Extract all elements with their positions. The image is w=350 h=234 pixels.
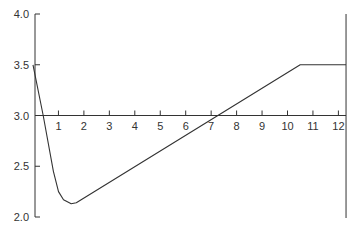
x-tick-label: 6 [183, 120, 189, 132]
x-tick-label: 8 [234, 120, 240, 132]
axes [35, 14, 346, 218]
series-line-curve [33, 65, 346, 204]
y-tick-label: 2.5 [14, 160, 29, 172]
x-tick-label: 9 [259, 120, 265, 132]
series-group [33, 65, 346, 204]
y-tick-label: 3.5 [14, 59, 29, 71]
y-tick-label: 3.0 [14, 110, 29, 122]
x-tick-label: 4 [132, 120, 138, 132]
x-tick-label: 5 [157, 120, 163, 132]
y-tick-label: 2.0 [14, 211, 29, 223]
x-tick-label: 12 [332, 120, 344, 132]
y-axis-ticks: 4.03.53.02.52.0 [14, 8, 40, 223]
x-tick-label: 11 [307, 120, 318, 132]
x-axis-ticks: 123456789101112 [55, 111, 344, 132]
x-tick-label: 2 [81, 120, 87, 132]
x-tick-label: 1 [55, 120, 61, 132]
x-tick-label: 3 [106, 120, 112, 132]
y-tick-label: 4.0 [14, 8, 29, 20]
line-chart: 4.03.53.02.52.0 123456789101112 [0, 0, 350, 234]
x-tick-label: 10 [281, 120, 293, 132]
